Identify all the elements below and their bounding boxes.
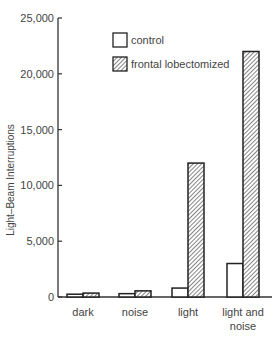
x-category-label: light [178,306,198,318]
bar-control [227,264,243,297]
bar-chart: 05,00010,00015,00020,00025,000 darknoise… [0,0,274,337]
legend-swatch [113,33,127,47]
x-axis-labels: darknoiselightlight andnoise [72,306,264,332]
bars [67,51,259,297]
y-tick-label: 5,000 [26,235,54,247]
y-axis-title: Light–Beam Interruptions [5,124,16,236]
x-category-label: light and [222,306,264,318]
x-category-label: noise [122,306,148,318]
y-tick-label: 10,000 [20,179,54,191]
y-tick-label: 20,000 [20,68,54,80]
bar-control [67,294,83,297]
legend-label: frontal lobectomized [131,58,229,70]
y-tick-label: 25,000 [20,12,54,24]
bar-frontal-lobectomized [83,293,99,297]
x-category-label: dark [72,306,94,318]
y-tick-label: 15,000 [20,124,54,136]
bar-frontal-lobectomized [243,51,259,297]
legend-swatch [113,57,127,71]
legend-label: control [131,34,164,46]
bar-frontal-lobectomized [188,163,204,297]
y-tick-label: 0 [48,291,54,303]
bar-control [172,288,188,297]
legend: controlfrontal lobectomized [113,33,229,71]
bar-frontal-lobectomized [135,291,151,297]
bar-control [119,294,135,297]
y-axis: 05,00010,00015,00020,00025,000 [20,12,272,303]
x-category-label: noise [230,320,256,332]
